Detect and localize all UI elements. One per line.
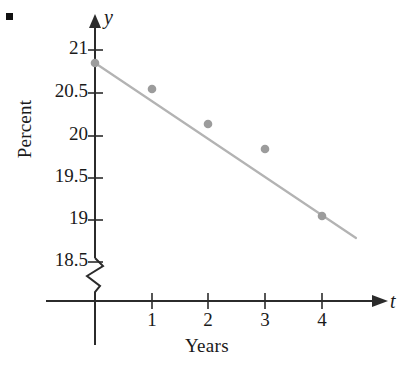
data-point xyxy=(261,145,270,154)
data-point xyxy=(204,120,213,129)
scatter-plot-figure: Percent Years y t 21 20.5 20 19.5 19 18.… xyxy=(0,0,402,369)
regression-trend-line xyxy=(95,63,356,238)
plot-canvas xyxy=(0,0,402,369)
data-point xyxy=(91,59,100,68)
x-axis-arrowhead-icon xyxy=(372,295,388,307)
data-point xyxy=(318,212,327,221)
y-axis-arrowhead-icon xyxy=(89,14,101,28)
x-axis-group xyxy=(46,293,388,309)
data-point xyxy=(148,85,157,94)
